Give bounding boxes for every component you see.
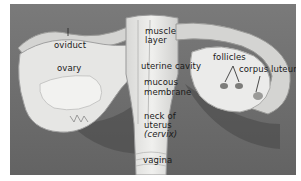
label-vagina: vagina — [143, 156, 172, 165]
label-oviduct: oviduct — [54, 41, 86, 50]
follicle-2 — [235, 83, 243, 89]
label-ovary: ovary — [57, 64, 81, 73]
label-follicles: follicles — [213, 53, 246, 62]
corpus-luteum-shape — [253, 92, 263, 100]
follicle-1 — [220, 83, 228, 89]
anatomy-illustration: oviduct ovary muscle layer uterine cavit… — [10, 4, 296, 175]
label-muscle-layer-line2: layer — [145, 36, 167, 45]
label-cervix: (cervix) — [144, 130, 177, 139]
label-corpus-luteum: corpus luteum — [239, 65, 296, 74]
label-mucous-membrane-line2: membrane — [144, 88, 191, 97]
label-uterine-cavity: uterine cavity — [141, 62, 201, 71]
label-mucous-membrane-line1: mucous — [144, 78, 178, 87]
